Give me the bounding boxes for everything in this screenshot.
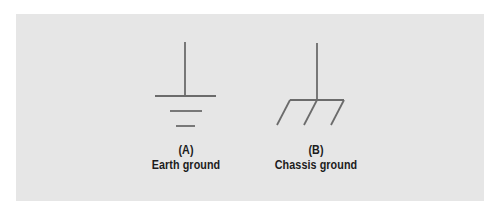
earth-ground-name: Earth ground [143,158,229,173]
chassis-ground-caption: (B) Chassis ground [264,143,367,173]
chassis-ground-icon [277,43,344,125]
diagram-canvas [0,0,497,208]
earth-ground-icon [155,42,216,126]
earth-ground-caption: (A) Earth ground [143,143,229,173]
chassis-ground-letter: (B) [264,143,367,158]
chassis-ground-name: Chassis ground [264,158,367,173]
earth-ground-letter: (A) [143,143,229,158]
